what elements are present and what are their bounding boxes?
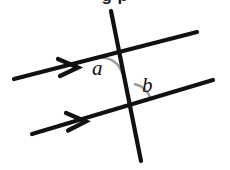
lower-parallel-line — [32, 80, 213, 134]
angle-label-b: b — [142, 75, 153, 96]
transversal-line — [111, 11, 141, 161]
angle-label-a: a — [92, 58, 103, 79]
upper-parallel-line — [14, 32, 197, 79]
parallel-lines-transversal-diagram — [0, 0, 230, 170]
geometry-figure: g p a b — [0, 0, 230, 170]
